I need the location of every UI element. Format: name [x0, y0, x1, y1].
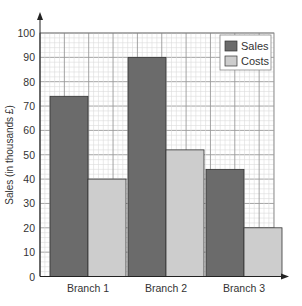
legend-label-costs: Costs — [241, 55, 270, 67]
bar-costs-branch-3 — [244, 228, 282, 277]
y-tick-label: 90 — [23, 51, 35, 63]
x-tick-label: Branch 3 — [223, 282, 265, 294]
y-tick-label: 30 — [23, 197, 35, 209]
bar-costs-branch-2 — [166, 150, 204, 277]
bar-sales-branch-1 — [50, 96, 88, 276]
legend-swatch-sales — [225, 41, 237, 51]
bar-sales-branch-3 — [206, 169, 244, 276]
y-tick-label: 100 — [17, 27, 35, 39]
legend-swatch-costs — [225, 56, 237, 66]
y-tick-label: 20 — [23, 222, 35, 234]
legend-label-sales: Sales — [241, 40, 269, 52]
x-tick-label: Branch 1 — [67, 282, 109, 294]
y-tick-label: 40 — [23, 173, 35, 185]
x-axis-arrow-icon — [281, 274, 289, 280]
y-axis-arrow-icon — [37, 12, 43, 20]
bar-costs-branch-1 — [88, 179, 126, 276]
y-tick-label: 60 — [23, 124, 35, 136]
legend: SalesCosts — [220, 35, 271, 70]
y-tick-labels: 0102030405060708090100 — [17, 27, 35, 283]
bar-chart: 0102030405060708090100 Branch 1Branch 2B… — [0, 0, 302, 306]
y-tick-label: 50 — [23, 149, 35, 161]
y-tick-label: 10 — [23, 246, 35, 258]
y-tick-label: 0 — [29, 271, 35, 283]
bar-sales-branch-2 — [128, 57, 166, 276]
x-tick-labels: Branch 1Branch 2Branch 3 — [67, 282, 265, 294]
y-tick-label: 80 — [23, 76, 35, 88]
y-axis-label: Sales (in thousands £) — [4, 105, 15, 205]
bars — [50, 57, 282, 276]
y-tick-label: 70 — [23, 100, 35, 112]
x-tick-label: Branch 2 — [145, 282, 187, 294]
